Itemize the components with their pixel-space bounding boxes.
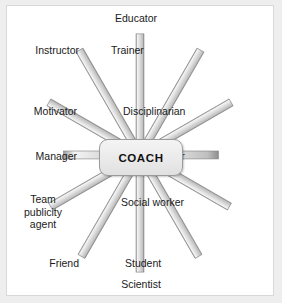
diagram-frame: COACH Educator Trainer Disciplinarian Ad… [6,5,274,296]
node-label-educator[interactable]: Educator [81,12,191,25]
node-label-student[interactable]: Student [125,257,205,270]
center-node-label: COACH [118,152,163,164]
node-label-friend[interactable]: Friend [6,257,79,270]
node-label-motivator[interactable]: Motivator [6,105,77,118]
node-label-trainer[interactable]: Trainer [111,44,191,57]
center-node[interactable]: COACH [99,139,183,176]
node-label-social-worker[interactable]: Social worker [121,196,201,209]
node-label-disciplinarian[interactable]: Disciplinarian [123,105,203,118]
node-label-manager[interactable]: Manager [6,150,77,163]
node-label-scientist[interactable]: Scientist [86,278,196,291]
node-label-instructor[interactable]: Instructor [6,44,79,57]
node-label-team-publicity-agent[interactable]: Team publicity agent [6,193,83,231]
